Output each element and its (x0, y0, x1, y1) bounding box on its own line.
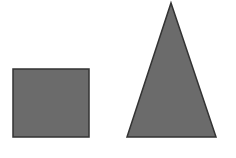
square-shape (13, 69, 89, 137)
diagram-canvas (0, 0, 236, 158)
triangle-shape (127, 3, 216, 137)
